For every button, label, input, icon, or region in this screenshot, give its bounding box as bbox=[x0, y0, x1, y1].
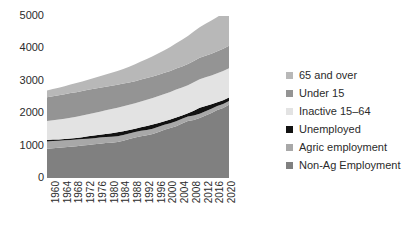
stacked-area-svg bbox=[47, 16, 229, 178]
legend-swatch-unemployed bbox=[286, 126, 293, 133]
x-axis-tick-2016: 2016 bbox=[215, 181, 225, 203]
x-axis-tick-2008: 2008 bbox=[192, 181, 202, 203]
x-axis-tick-2012: 2012 bbox=[204, 181, 214, 203]
y-axis-tick-2000: 2000 bbox=[0, 107, 44, 118]
y-axis-tick-0: 0 bbox=[0, 172, 44, 183]
y-axis-tick-5000: 5000 bbox=[0, 10, 44, 21]
x-axis-tick-1988: 1988 bbox=[133, 181, 143, 203]
legend-item-agric-employment[interactable]: Agric employment bbox=[286, 138, 410, 156]
x-axis-tick-1960: 1960 bbox=[51, 181, 61, 203]
plot-area bbox=[47, 16, 229, 178]
x-axis-tick-2000: 2000 bbox=[168, 181, 178, 203]
legend-label: 65 and over bbox=[299, 70, 357, 81]
x-axis-tick-1996: 1996 bbox=[157, 181, 167, 203]
legend-label: Non-Ag Employment bbox=[299, 160, 401, 171]
x-axis-tick-1992: 1992 bbox=[145, 181, 155, 203]
legend-item-unemployed[interactable]: Unemployed bbox=[286, 120, 410, 138]
y-axis-tick-1000: 1000 bbox=[0, 140, 44, 151]
legend-swatch-agric-employment bbox=[286, 144, 293, 151]
chart-legend: 65 and overUnder 15Inactive 15–64Unemplo… bbox=[286, 66, 410, 174]
legend-swatch-65-and-over bbox=[286, 72, 293, 79]
x-axis-tick-1972: 1972 bbox=[86, 181, 96, 203]
legend-swatch-non-ag-employment bbox=[286, 162, 293, 169]
x-axis-tick-2004: 2004 bbox=[180, 181, 190, 203]
legend-swatch-under-15 bbox=[286, 90, 293, 97]
legend-item-non-ag-employment[interactable]: Non-Ag Employment bbox=[286, 156, 410, 174]
legend-label: Inactive 15–64 bbox=[299, 106, 371, 117]
x-axis-tick-1976: 1976 bbox=[98, 181, 108, 203]
legend-label: Under 15 bbox=[299, 88, 344, 99]
legend-item-65-and-over[interactable]: 65 and over bbox=[286, 66, 410, 84]
y-axis-tick-4000: 4000 bbox=[0, 42, 44, 53]
x-axis-tick-1968: 1968 bbox=[74, 181, 84, 203]
x-axis-tick-1964: 1964 bbox=[63, 181, 73, 203]
legend-item-inactive-15-64[interactable]: Inactive 15–64 bbox=[286, 102, 410, 120]
x-axis-tick-1980: 1980 bbox=[110, 181, 120, 203]
legend-label: Unemployed bbox=[299, 124, 361, 135]
legend-label: Agric employment bbox=[299, 142, 387, 153]
chart-container: 500040003000200010000 196019641968197219… bbox=[0, 0, 410, 239]
x-axis-tick-2020: 2020 bbox=[227, 181, 237, 203]
x-axis-tick-1984: 1984 bbox=[121, 181, 131, 203]
y-axis-tick-3000: 3000 bbox=[0, 75, 44, 86]
x-axis-tick-labels: 1960196419681972197619801984198819921996… bbox=[47, 180, 229, 239]
legend-swatch-inactive-15-64 bbox=[286, 108, 293, 115]
legend-item-under-15[interactable]: Under 15 bbox=[286, 84, 410, 102]
